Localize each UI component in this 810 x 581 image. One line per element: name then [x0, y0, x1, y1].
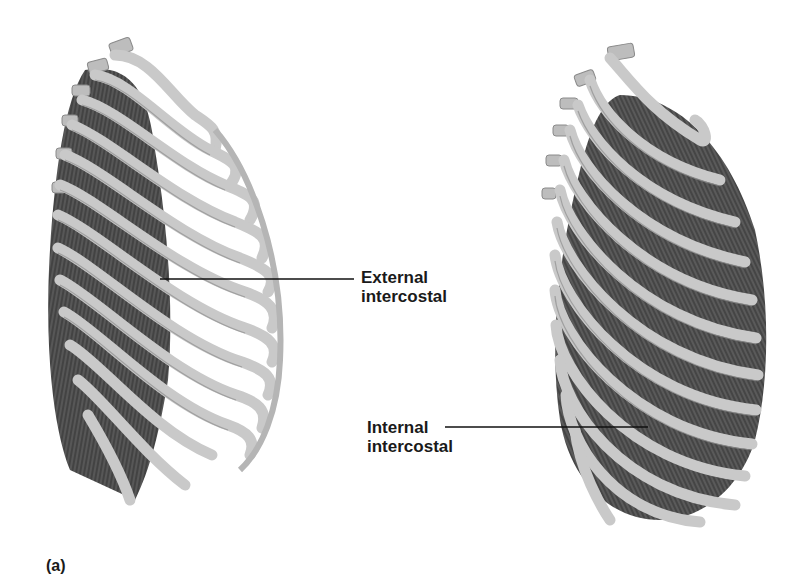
right-ribcage: [542, 43, 766, 522]
internal-intercostal-label: Internal intercostal: [367, 418, 453, 456]
external-intercostal-label: External intercostal: [361, 268, 447, 306]
panel-label: (a): [46, 557, 66, 575]
left-ribcage: [48, 37, 280, 500]
